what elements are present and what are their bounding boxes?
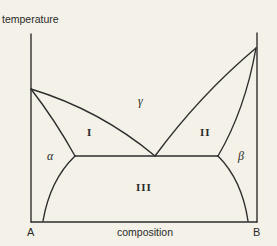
phase-diagram-lines <box>0 0 277 246</box>
region-liquid-plus-alpha: I <box>87 127 92 138</box>
region-liquid-gamma: γ <box>138 95 143 107</box>
phase-diagram: temperature composition A B γ I II III α… <box>0 0 277 246</box>
liquidus-left <box>31 89 155 156</box>
region-beta: β <box>238 150 244 162</box>
component-b-label: B <box>253 227 260 238</box>
solidus-left <box>31 89 75 156</box>
component-a-label: A <box>27 227 34 238</box>
region-alpha: α <box>47 150 53 162</box>
region-liquid-plus-beta: II <box>200 127 211 138</box>
x-axis-label: composition <box>117 227 173 238</box>
region-alpha-plus-beta: III <box>136 182 152 193</box>
liquidus-right <box>155 48 256 156</box>
y-axis-label: temperature <box>2 14 59 25</box>
solvus-right <box>218 156 248 221</box>
solvus-left <box>43 156 75 221</box>
